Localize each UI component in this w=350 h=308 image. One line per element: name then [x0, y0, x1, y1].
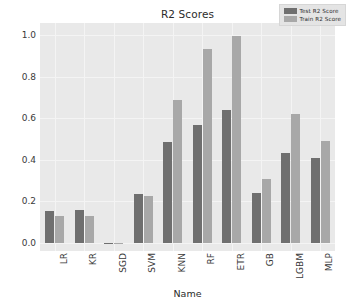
y-tick-label: 0.8 — [2, 72, 36, 82]
legend-label-test: Test R2 Score — [300, 8, 339, 14]
bar-gb-test — [252, 193, 261, 243]
bar-lr-train — [55, 216, 64, 243]
bar-mlp-train — [321, 141, 330, 243]
x-tick-label-svm: SVM — [147, 253, 157, 273]
x-tick-label-mlp: MLP — [324, 253, 334, 271]
y-axis-tick-labels: 0.00.20.40.60.81.0 — [0, 23, 36, 251]
chart-legend: Test R2 Score Train R2 Score — [279, 4, 347, 26]
bar-etr-test — [222, 110, 231, 242]
bar-lgbm-train — [291, 114, 300, 243]
x-tick-label-etr: ETR — [236, 253, 246, 270]
x-tick-label-lr: LR — [59, 253, 69, 264]
x-tick-label-sgd: SGD — [118, 253, 128, 273]
bar-kr-train — [85, 216, 94, 243]
bar-sgd-train — [114, 243, 123, 244]
bar-lgbm-test — [281, 153, 290, 243]
bar-knn-train — [173, 100, 182, 242]
y-tick-label: 0.2 — [2, 196, 36, 206]
legend-item-train: Train R2 Score — [284, 16, 342, 22]
x-axis-tick-labels: LRKRSGDSVMKNNRFETRGBLGBMMLP — [40, 253, 335, 287]
bar-etr-train — [232, 36, 241, 243]
x-tick-label-lgbm: LGBM — [295, 253, 305, 279]
y-tick-label: 0.0 — [2, 238, 36, 248]
bar-rf-train — [203, 49, 212, 243]
bar-lr-test — [45, 211, 54, 243]
legend-swatch-test-icon — [284, 8, 297, 14]
bar-gb-train — [262, 179, 271, 243]
legend-label-train: Train R2 Score — [300, 16, 342, 22]
legend-item-test: Test R2 Score — [284, 8, 342, 14]
x-tick-label-knn: KNN — [177, 253, 187, 272]
bar-kr-test — [75, 210, 84, 243]
x-axis-label: Name — [40, 288, 335, 299]
x-tick-label-rf: RF — [206, 253, 216, 264]
x-tick-label-kr: KR — [88, 253, 98, 265]
bar-knn-test — [163, 142, 172, 243]
bar-sgd-test — [104, 243, 113, 244]
gridline-x-2 — [114, 23, 115, 251]
chart-figure: R2 Scores 0.00.20.40.60.81.0 LRKRSGDSVMK… — [0, 0, 350, 308]
y-tick-label: 0.4 — [2, 155, 36, 165]
bar-rf-test — [193, 125, 202, 243]
plot-area — [40, 23, 335, 251]
bar-svm-test — [134, 194, 143, 243]
bar-mlp-test — [311, 158, 320, 243]
y-tick-label: 0.6 — [2, 113, 36, 123]
bar-svm-train — [144, 196, 153, 243]
x-tick-label-gb: GB — [265, 253, 275, 266]
y-tick-label: 1.0 — [2, 30, 36, 40]
legend-swatch-train-icon — [284, 16, 297, 22]
